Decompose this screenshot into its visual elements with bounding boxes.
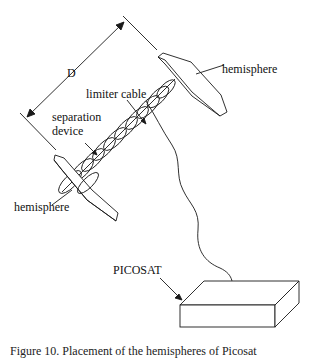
separation-device-label-line1: separation	[52, 111, 101, 124]
hemisphere-bottom-label: hemisphere	[14, 201, 69, 214]
picosat-label: PICOSAT	[113, 264, 162, 277]
dimension-label: D	[67, 67, 76, 80]
separation-device-label-line2: device	[52, 125, 83, 138]
limiter-cable-label: limiter cable	[86, 88, 146, 101]
figure-caption: Figure 10. Placement of the hemispheres …	[10, 344, 257, 359]
picosat-box	[180, 281, 299, 327]
hemisphere-top-label: hemisphere	[222, 63, 277, 76]
dimension-line-d	[20, 16, 157, 150]
hemisphere-top	[158, 53, 227, 116]
picosat-leader	[160, 278, 180, 298]
